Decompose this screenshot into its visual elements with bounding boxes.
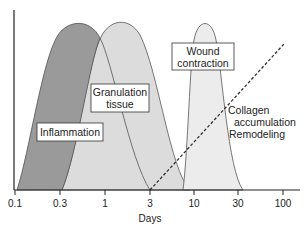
tick-label: 100 bbox=[275, 198, 292, 209]
x-tick-labels: 0.1 0.3 1 3 10 30 100 bbox=[8, 198, 292, 209]
tick-label: 1 bbox=[102, 198, 108, 209]
wound-healing-chart: 0.1 0.3 1 3 10 30 100 Days Inflammation … bbox=[0, 0, 306, 229]
granulation-label-line2: tissue bbox=[106, 98, 134, 110]
tick-label: 3 bbox=[147, 198, 153, 209]
collagen-label-line3: Remodeling bbox=[229, 128, 285, 140]
tick-label: 30 bbox=[232, 198, 244, 209]
collagen-label-line1: Collagen bbox=[228, 104, 270, 116]
tick-label: 10 bbox=[188, 198, 200, 209]
tick-label: 0.3 bbox=[53, 198, 67, 209]
collagen-label-line2: accumulation bbox=[234, 116, 296, 128]
granulation-label-line1: Granulation bbox=[93, 86, 147, 98]
wound-label-line1: Wound bbox=[186, 45, 219, 57]
tick-label: 0.1 bbox=[8, 198, 22, 209]
inflammation-label: Inflammation bbox=[40, 126, 100, 138]
x-axis-label: Days bbox=[139, 213, 162, 224]
wound-label-line2: contraction bbox=[177, 57, 229, 69]
x-ticks bbox=[15, 190, 283, 195]
